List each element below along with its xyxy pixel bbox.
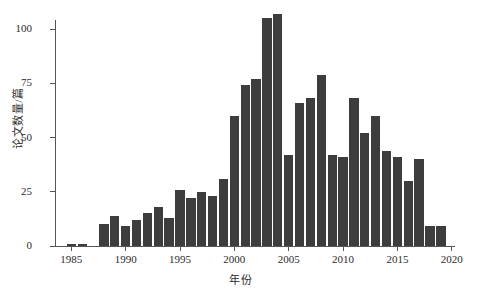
- bar-2009: [328, 155, 337, 246]
- bar-1991: [132, 220, 141, 246]
- bar-1995: [175, 190, 184, 246]
- bar-1988: [99, 224, 108, 246]
- x-axis-title: 年份: [0, 271, 481, 287]
- bar-1998: [208, 196, 217, 246]
- bar-2006: [295, 103, 304, 246]
- bar-2012: [360, 133, 369, 246]
- bar-2015: [393, 157, 402, 246]
- bar-1996: [186, 198, 195, 246]
- bar-2017: [414, 159, 423, 246]
- bar-1994: [164, 218, 173, 246]
- bar-2003: [262, 18, 271, 246]
- bar-2007: [306, 98, 315, 246]
- bar-2010: [338, 157, 347, 246]
- bar-1992: [143, 213, 152, 246]
- bar-2004: [273, 14, 282, 246]
- bar-2001: [241, 85, 250, 246]
- bar-2018: [425, 226, 434, 246]
- y-axis-title: 论文数量/篇: [9, 58, 25, 178]
- bar-2014: [382, 151, 391, 246]
- bar-1997: [197, 192, 206, 246]
- bar-1986: [78, 244, 87, 246]
- bar-1985: [67, 244, 76, 246]
- bar-2005: [284, 155, 293, 246]
- bar-2002: [251, 79, 260, 246]
- bar-1989: [110, 216, 119, 246]
- bar-1990: [121, 226, 130, 246]
- bar-2013: [371, 116, 380, 246]
- bar-chart-figure: 0255075100 19851990199520002005201020152…: [0, 0, 481, 300]
- bar-2019: [436, 226, 445, 246]
- bar-1993: [154, 207, 163, 246]
- bar-2016: [404, 181, 413, 246]
- bar-series: [0, 0, 481, 300]
- bar-2000: [230, 116, 239, 246]
- bar-2011: [349, 98, 358, 246]
- bar-1999: [219, 179, 228, 246]
- bar-2008: [317, 75, 326, 246]
